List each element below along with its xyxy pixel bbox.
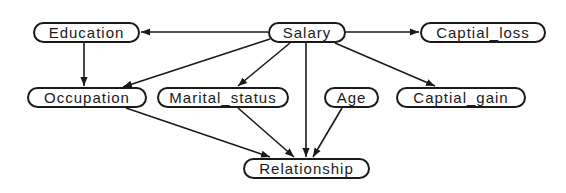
edge-age-relationship bbox=[313, 108, 342, 157]
node-label: Captial_gain bbox=[413, 90, 508, 105]
node-label: Relationship bbox=[259, 161, 354, 176]
node-education: Education bbox=[33, 22, 140, 43]
node-captial-gain: Captial_gain bbox=[396, 87, 526, 108]
node-label: Occupation bbox=[44, 90, 130, 105]
node-occupation: Occupation bbox=[27, 87, 147, 108]
edge-salary-occupation bbox=[123, 39, 270, 87]
node-marital-status: Marital_status bbox=[157, 87, 289, 108]
node-label: Age bbox=[337, 90, 367, 105]
edge-salary-marital-status bbox=[238, 43, 290, 86]
node-label: Salary bbox=[283, 25, 332, 40]
node-label: Captial_loss bbox=[436, 25, 530, 40]
node-label: Education bbox=[49, 25, 125, 40]
node-captial-loss: Captial_loss bbox=[420, 22, 546, 43]
edge-salary-captial-gain bbox=[335, 43, 435, 86]
edge-occupation-relationship bbox=[126, 108, 270, 157]
node-relationship: Relationship bbox=[243, 158, 370, 179]
node-salary: Salary bbox=[268, 22, 346, 43]
node-label: Marital_status bbox=[169, 90, 276, 105]
node-age: Age bbox=[324, 87, 379, 108]
bayesian-network-diagram: Education Salary Captial_loss Occupation… bbox=[0, 0, 566, 193]
